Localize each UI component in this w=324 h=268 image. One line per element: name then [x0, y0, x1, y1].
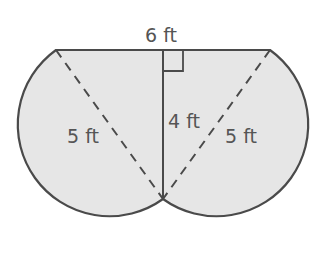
label-right-diagonal: 5 ft	[225, 125, 257, 147]
label-height: 4 ft	[168, 110, 200, 132]
label-top-width: 6 ft	[145, 24, 177, 46]
composite-figure: 6 ft 4 ft 5 ft 5 ft	[0, 0, 324, 268]
label-left-diagonal: 5 ft	[67, 125, 99, 147]
